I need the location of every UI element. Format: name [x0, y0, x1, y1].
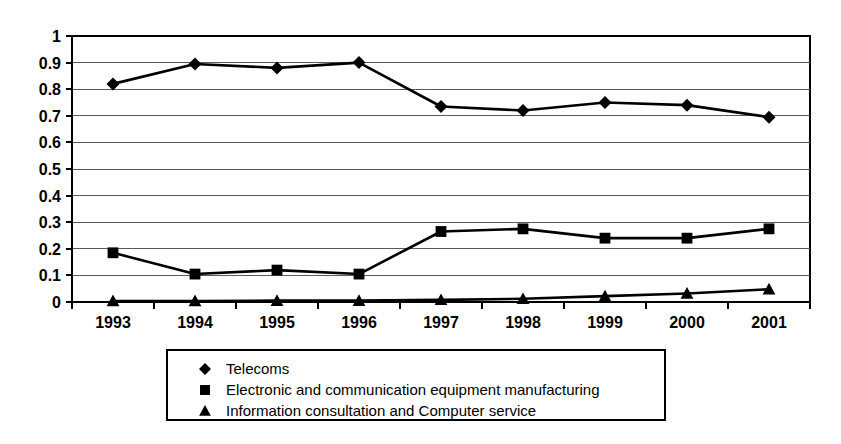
- x-axis-tick-label: 1995: [259, 314, 295, 331]
- y-axis-tick-label: 1: [52, 28, 61, 45]
- y-axis-tick-label: 0.5: [39, 161, 61, 178]
- data-point-square: [354, 269, 365, 280]
- x-axis-tick-label: 2001: [751, 314, 787, 331]
- data-point-square: [272, 265, 283, 276]
- x-axis-tick-label: 1998: [505, 314, 541, 331]
- x-axis-tick-label: 1993: [95, 314, 131, 331]
- y-axis-tick-label: 0: [52, 294, 61, 311]
- x-axis-tick-label: 1994: [177, 314, 213, 331]
- y-axis-tick-label: 0.8: [39, 81, 61, 98]
- data-point-square: [682, 233, 693, 244]
- x-axis-tick-label: 1996: [341, 314, 377, 331]
- y-axis-tick-label: 0.1: [39, 267, 61, 284]
- data-point-square: [600, 233, 611, 244]
- legend-marker-square: [200, 385, 210, 395]
- legend-label: Telecoms: [226, 360, 289, 377]
- legend-label: Electronic and communication equipment m…: [226, 381, 600, 398]
- y-axis-tick-label: 0.7: [39, 108, 61, 125]
- data-point-square: [436, 226, 447, 237]
- data-point-square: [108, 247, 119, 258]
- data-point-square: [518, 223, 529, 234]
- x-axis-tick-labels: 199319941995199619971998199920002001: [95, 314, 787, 331]
- x-axis-tick-label: 2000: [669, 314, 705, 331]
- legend-label: Information consultation and Computer se…: [226, 402, 536, 419]
- y-axis-tick-label: 0.3: [39, 214, 61, 231]
- x-axis-tick-label: 1999: [587, 314, 623, 331]
- data-point-square: [764, 223, 775, 234]
- data-point-square: [190, 269, 201, 280]
- x-axis-tick-label: 1997: [423, 314, 459, 331]
- line-chart: 00.10.20.30.40.50.60.70.80.91 1993199419…: [0, 0, 841, 444]
- y-axis-tick-label: 0.2: [39, 241, 61, 258]
- y-axis-tick-labels: 00.10.20.30.40.50.60.70.80.91: [39, 28, 61, 311]
- y-axis-tick-label: 0.6: [39, 134, 61, 151]
- y-axis-tick-label: 0.9: [39, 55, 61, 72]
- legend: TelecomsElectronic and communication equ…: [167, 350, 665, 420]
- chart-canvas: 00.10.20.30.40.50.60.70.80.91 1993199419…: [0, 0, 841, 444]
- y-axis-tick-label: 0.4: [39, 188, 61, 205]
